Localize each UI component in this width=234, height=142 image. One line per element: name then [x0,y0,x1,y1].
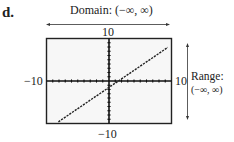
range-label: Range: (−∞, ∞) [191,70,224,96]
ymax-label: 10 [102,25,114,40]
xmax-label: 10 [175,74,187,89]
xmin-label: −10 [24,74,43,89]
range-title: Range: [191,70,224,83]
range-interval: (−∞, ∞) [191,83,224,96]
ymin-label: −10 [98,127,117,142]
